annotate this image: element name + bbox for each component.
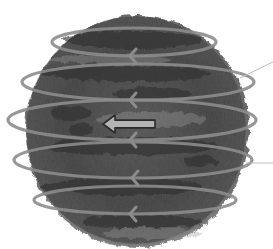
rotating-sphere-diagram	[0, 0, 273, 249]
leader-line	[240, 62, 273, 78]
